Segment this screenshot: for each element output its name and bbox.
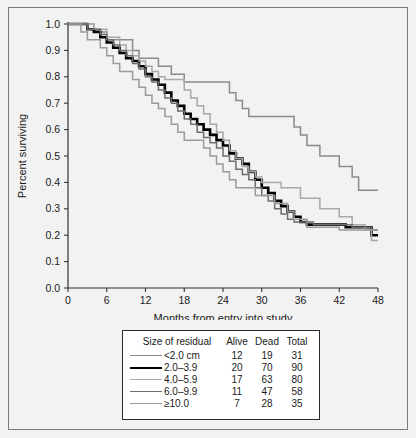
legend-dead-value: 28 [252, 397, 282, 409]
y-tick-label: 0.3 [45, 202, 60, 214]
legend-dead-value: 19 [252, 349, 282, 361]
legend-alive-value: 7 [222, 397, 252, 409]
legend-header-label: Size of residual [130, 336, 222, 349]
legend-dead-value: 63 [252, 373, 282, 385]
legend-box: Size of residual Alive Dead Total <2.0 c… [122, 330, 320, 420]
legend-line-swatch [130, 379, 162, 380]
x-tick-label: 36 [295, 294, 307, 306]
x-axis-title: Months from entry into study [154, 312, 293, 320]
legend-row: <2.0 cm121931 [130, 349, 312, 361]
legend-total-value: 58 [282, 385, 312, 397]
y-tick-label: 0.1 [45, 255, 60, 267]
legend-table: Size of residual Alive Dead Total <2.0 c… [130, 336, 312, 409]
legend-header-total: Total [282, 336, 312, 349]
y-tick-label: 1.0 [45, 18, 60, 30]
y-tick-label: 0.2 [45, 229, 60, 241]
y-axis-title: Percent surviving [16, 114, 28, 198]
x-tick-label: 18 [178, 294, 190, 306]
legend-line-swatch [130, 367, 162, 369]
x-tick-label: 12 [140, 294, 152, 306]
plot-area: 0.00.10.20.30.40.50.60.70.80.91.00612182… [0, 0, 416, 320]
legend-dead-value: 47 [252, 385, 282, 397]
legend-row: 2.0–3.9207090 [130, 361, 312, 373]
legend-label: 2.0–3.9 [164, 361, 222, 373]
legend-label: 6.0–9.9 [164, 385, 222, 397]
legend-line-swatch [130, 391, 162, 392]
legend-alive-value: 20 [222, 361, 252, 373]
legend-label: 4.0–5.9 [164, 373, 222, 385]
figure-container: 0.00.10.20.30.40.50.60.70.80.91.00612182… [0, 0, 416, 438]
legend-row: 4.0–5.9176380 [130, 373, 312, 385]
y-tick-label: 0.5 [45, 150, 60, 162]
x-tick-label: 0 [65, 294, 71, 306]
legend-total-value: 31 [282, 349, 312, 361]
survival-plot-svg: 0.00.10.20.30.40.50.60.70.80.91.00612182… [0, 0, 416, 320]
legend-header-dead: Dead [252, 336, 282, 349]
y-tick-label: 0.8 [45, 70, 60, 82]
x-tick-label: 30 [256, 294, 268, 306]
legend-total-value: 90 [282, 361, 312, 373]
survival-curve [68, 24, 378, 240]
legend-swatch-cell [130, 361, 164, 373]
legend-swatch-cell [130, 349, 164, 361]
legend-line-swatch [130, 403, 162, 404]
y-tick-label: 0.7 [45, 97, 60, 109]
legend-body: <2.0 cm1219312.0–3.92070904.0–5.91763806… [130, 349, 312, 409]
legend-label: <2.0 cm [164, 349, 222, 361]
legend-alive-value: 17 [222, 373, 252, 385]
y-tick-label: 0.9 [45, 44, 60, 56]
y-tick-label: 0.0 [45, 282, 60, 294]
legend-header-alive: Alive [222, 336, 252, 349]
y-tick-label: 0.4 [45, 176, 60, 188]
survival-curve [68, 24, 378, 230]
legend-header-row: Size of residual Alive Dead Total [130, 336, 312, 349]
legend-swatch-cell [130, 373, 164, 385]
survival-curve [68, 24, 378, 230]
legend-swatch-cell [130, 397, 164, 409]
x-tick-label: 24 [217, 294, 229, 306]
legend-head: Size of residual Alive Dead Total [130, 336, 312, 349]
legend-row: ≥10.072835 [130, 397, 312, 409]
legend-line-swatch [130, 355, 162, 356]
x-tick-label: 42 [333, 294, 345, 306]
legend-swatch-cell [130, 385, 164, 397]
curves-group [68, 24, 378, 240]
legend-dead-value: 70 [252, 361, 282, 373]
y-tick-label: 0.6 [45, 123, 60, 135]
legend-alive-value: 12 [222, 349, 252, 361]
legend-total-value: 35 [282, 397, 312, 409]
x-tick-label: 48 [372, 294, 384, 306]
survival-curve [68, 24, 378, 235]
legend-label: ≥10.0 [164, 397, 222, 409]
legend-alive-value: 11 [222, 385, 252, 397]
legend-total-value: 80 [282, 373, 312, 385]
x-tick-label: 6 [104, 294, 110, 306]
legend-row: 6.0–9.9114758 [130, 385, 312, 397]
axes-group [64, 22, 378, 292]
axis-labels-group: 0.00.10.20.30.40.50.60.70.80.91.00612182… [16, 18, 384, 320]
